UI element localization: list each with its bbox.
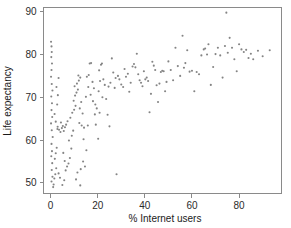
data-point <box>85 149 87 151</box>
data-point <box>50 109 52 111</box>
data-point <box>78 80 80 82</box>
data-point <box>51 116 53 118</box>
x-axis-title: % Internet users <box>129 213 202 224</box>
data-point <box>257 50 259 52</box>
data-point <box>77 74 79 76</box>
data-point <box>54 173 56 175</box>
data-point <box>212 66 214 68</box>
data-point <box>76 172 78 174</box>
data-point <box>219 54 221 56</box>
data-point <box>196 71 198 73</box>
data-point <box>133 63 135 65</box>
data-point <box>58 77 60 79</box>
data-point <box>144 78 146 80</box>
data-point <box>66 120 68 122</box>
data-point <box>51 89 53 91</box>
y-tick-label: 80 <box>25 49 37 60</box>
axis-ticks <box>40 12 240 198</box>
data-point <box>172 79 174 81</box>
data-point <box>68 139 70 141</box>
data-point <box>108 125 110 127</box>
data-point <box>55 167 57 169</box>
data-point <box>67 163 69 165</box>
data-point <box>72 130 74 132</box>
data-point <box>55 121 57 123</box>
data-point <box>250 53 252 55</box>
data-point <box>243 51 245 53</box>
data-point <box>101 96 103 98</box>
data-point <box>157 101 159 103</box>
data-point <box>156 84 158 86</box>
data-point <box>98 69 100 71</box>
data-point <box>83 138 85 140</box>
data-point <box>71 135 73 137</box>
data-point <box>167 60 169 62</box>
data-point <box>112 71 114 73</box>
data-point <box>125 76 127 78</box>
data-point <box>120 83 122 85</box>
data-point <box>64 160 66 162</box>
data-point <box>210 84 212 86</box>
data-point <box>51 150 53 152</box>
data-point <box>154 69 156 71</box>
scatter-plot-figure: 0204060805060708090 % Internet users Lif… <box>0 0 291 228</box>
data-point <box>80 168 82 170</box>
data-point <box>73 109 75 111</box>
data-point <box>51 51 53 53</box>
data-point <box>50 155 52 157</box>
data-point <box>87 124 89 126</box>
data-point <box>54 113 56 115</box>
data-point <box>79 184 81 186</box>
data-point <box>183 67 185 69</box>
data-point <box>146 77 148 79</box>
data-point <box>58 172 60 174</box>
data-point <box>97 138 99 140</box>
x-tick-label: 60 <box>186 200 198 211</box>
data-point <box>217 47 219 49</box>
data-point <box>148 111 150 113</box>
data-point <box>140 82 142 84</box>
data-point <box>90 62 92 64</box>
data-point <box>238 43 240 45</box>
data-point <box>50 180 52 182</box>
data-point <box>64 126 66 128</box>
data-point <box>132 65 134 67</box>
data-point <box>61 184 63 186</box>
data-point <box>107 86 109 88</box>
data-point <box>96 107 98 109</box>
data-point <box>151 61 153 63</box>
data-point <box>128 91 130 93</box>
data-point <box>134 66 136 68</box>
x-tick-label: 0 <box>48 200 54 211</box>
data-point <box>60 121 62 123</box>
plot-canvas: 0204060805060708090 % Internet users Lif… <box>0 0 291 228</box>
data-point <box>74 95 76 97</box>
data-point <box>200 54 202 56</box>
data-point <box>206 53 208 55</box>
data-point <box>51 176 53 178</box>
data-point <box>174 47 176 49</box>
data-point <box>127 73 129 75</box>
data-point <box>62 125 64 127</box>
data-point <box>207 43 209 45</box>
data-point <box>240 48 242 50</box>
data-point <box>115 77 117 79</box>
data-point <box>137 73 139 75</box>
data-point <box>71 112 73 114</box>
data-point <box>50 122 52 124</box>
data-point <box>130 82 132 84</box>
data-point <box>84 166 86 168</box>
y-tick-label: 60 <box>25 135 37 146</box>
data-point <box>63 179 65 181</box>
data-point <box>74 85 76 87</box>
data-point <box>124 68 126 70</box>
data-point <box>50 69 52 71</box>
data-point <box>75 105 77 107</box>
data-point <box>150 93 152 95</box>
data-point <box>57 94 59 96</box>
data-point <box>51 169 53 171</box>
data-point <box>56 147 58 149</box>
data-point <box>91 81 93 83</box>
data-point <box>69 117 71 119</box>
x-tick-label: 80 <box>234 200 246 211</box>
